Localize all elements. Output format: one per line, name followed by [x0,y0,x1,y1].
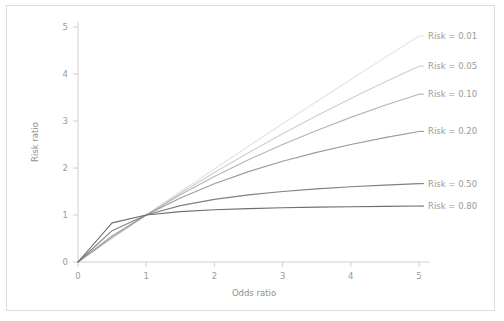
x-tick-label: 5 [416,271,421,281]
risk-ratio-odds-ratio-chart: 012345 012345 Risk = 0.01Risk = 0.05Risk… [0,0,504,321]
x-tick-label: 2 [212,271,217,281]
series-line [78,36,419,262]
series-lines [78,36,419,262]
y-tick-label: 5 [63,22,68,32]
x-tick-label: 1 [143,271,148,281]
y-tick-label: 4 [63,69,68,79]
chart-page: 012345 012345 Risk = 0.01Risk = 0.05Risk… [0,0,504,321]
legend-label: Risk = 0.50 [428,179,477,189]
x-axis-ticks: 012345 [75,262,421,281]
series-line [78,94,419,262]
x-tick-label: 4 [348,271,353,281]
series-line [78,131,419,262]
y-tick-label: 2 [63,163,68,173]
series-line [78,206,419,262]
y-tick-label: 0 [63,257,68,267]
x-tick-label: 0 [75,271,80,281]
y-tick-label: 1 [63,210,68,220]
legend-label: Risk = 0.20 [428,126,477,136]
x-tick-label: 3 [280,271,285,281]
x-axis-title: Odds ratio [232,288,276,298]
legend-label: Risk = 0.05 [428,61,477,71]
series-line [78,184,419,262]
legend-label: Risk = 0.80 [428,201,477,211]
legend-label: Risk = 0.01 [428,31,477,41]
y-axis-ticks: 012345 [63,22,78,267]
y-tick-label: 3 [63,116,68,126]
series-line [78,66,419,262]
legend: Risk = 0.01Risk = 0.05Risk = 0.10Risk = … [419,31,477,211]
legend-label: Risk = 0.10 [428,89,477,99]
y-axis-title: Risk ratio [30,122,40,162]
